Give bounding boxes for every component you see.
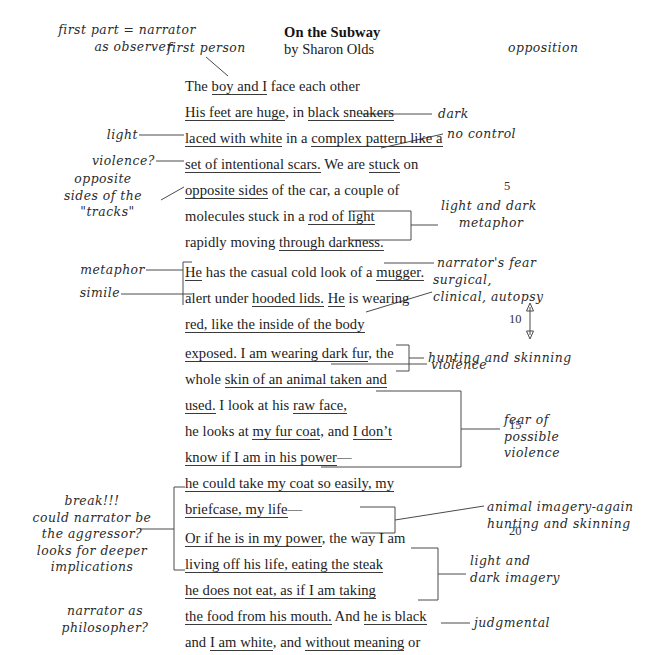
poem-underlined-phrase: black sneakers <box>308 104 394 121</box>
poem-plain-text: — <box>288 501 303 517</box>
annotation-first-person: first person <box>167 40 246 57</box>
poem-plain-text: , and <box>320 423 352 439</box>
poem-underlined-phrase: the food from his mouth. <box>185 608 332 625</box>
poem-line: know if I am in his power— <box>185 449 352 466</box>
poem-line: opposite sides of the car, a couple of <box>185 182 400 199</box>
poem-underlined-phrase: He <box>328 290 345 307</box>
poem-plain-text: — <box>337 449 352 465</box>
poem-underlined-phrase: through darkness. <box>279 234 384 251</box>
annotation-narrator-as-philosopher: narrator as philosopher? <box>40 603 170 636</box>
poem-line: set of intentional scars. We are stuck o… <box>185 156 418 173</box>
poem-line: he does not eat, as if I am taking <box>185 582 376 599</box>
poem-header: On the Subway by Sharon Olds <box>284 24 484 58</box>
poem-underlined-phrase: he does not eat, as if I am taking <box>185 582 376 599</box>
poem-underlined-phrase: I am white <box>210 634 273 651</box>
poem-underlined-phrase: complex pattern like a <box>311 130 442 147</box>
poem-underlined-phrase: briefcase, my life <box>185 501 288 518</box>
connector-animal-imagery <box>395 506 484 520</box>
line-number: 10 <box>509 312 522 327</box>
line-number: 5 <box>504 179 510 194</box>
poem-underlined-phrase: living off his life, eating the steak <box>185 556 383 573</box>
poem-underlined-phrase: His feet are huge <box>185 104 285 121</box>
poem-plain-text: or <box>404 634 420 650</box>
annotation-surgical-clinical-autopsy: surgical, clinical, autopsy <box>433 272 544 305</box>
poem-plain-text: in a <box>282 130 311 146</box>
poem-plain-text: face each other <box>267 78 360 94</box>
bracket-hunting-skinning <box>396 345 409 371</box>
connector-first-person <box>206 57 228 76</box>
poem-plain-text: , the <box>368 345 393 361</box>
poem-line: He has the casual cold look of a mugger. <box>185 264 424 281</box>
annotation-metaphor: metaphor <box>40 262 145 279</box>
annotation-violence-question: violence? <box>60 153 155 170</box>
poem-underlined-phrase: boy and I <box>212 78 268 95</box>
annotation-break-aggressor: break!!! could narrator be the aggressor… <box>22 493 162 576</box>
poem-plain-text: , and <box>273 634 305 650</box>
poem-line: laced with white in a complex pattern li… <box>185 130 443 147</box>
poem-underlined-phrase: rod of light <box>308 208 374 225</box>
poem-line: His feet are huge, in black sneakers <box>185 104 394 121</box>
poem-line: molecules stuck in a rod of light <box>185 208 375 225</box>
annotation-simile: simile <box>40 285 120 302</box>
poem-plain-text: The <box>185 78 212 94</box>
poem-plain-text: whole <box>185 371 225 387</box>
poem-line: whole skin of an animal taken and <box>185 371 387 388</box>
bracket-break-aggressor <box>174 487 185 570</box>
poem-underlined-phrase: hooded lids. <box>252 290 324 307</box>
poem-plain-text: of the car, a couple of <box>268 182 400 198</box>
connector-simile <box>121 294 183 305</box>
poem-plain-text: is wearing <box>345 290 410 306</box>
poem-underlined-phrase: laced with white <box>185 130 282 147</box>
poem-line: exposed. I am wearing dark fur, the <box>185 345 394 362</box>
annotation-no-control: no control <box>447 126 516 143</box>
poem-line: and I am white, and without meaning or <box>185 634 420 651</box>
poem-underlined-phrase: Or if he is in my power <box>185 530 322 547</box>
annotation-judgmental: judgmental <box>474 615 550 632</box>
line-number: 15 <box>509 418 522 433</box>
poem-line: rapidly moving through darkness. <box>185 234 384 251</box>
annotation-light: light <box>60 127 138 144</box>
worksheet-page: On the Subway by Sharon Olds first part … <box>0 0 657 655</box>
annotation-opposite-sides-tracks: opposite sides of the "tracks" <box>38 171 168 221</box>
page-title: On the Subway <box>284 24 484 41</box>
poem-plain-text: he looks at <box>185 423 252 439</box>
poem-line: used. I look at his raw face, <box>185 397 347 414</box>
poem-plain-text: has the casual cold look of a <box>202 264 376 280</box>
poem-underlined-phrase: I don’t <box>353 423 392 440</box>
annotation-opposition: opposition <box>508 40 579 57</box>
poem-underlined-phrase: skin of an animal taken and <box>225 371 387 388</box>
poem-plain-text: , the way I am <box>322 530 406 546</box>
poem-plain-text: , in <box>285 104 308 120</box>
annotation-narrators-fear: narrator's fear <box>437 255 536 272</box>
poem-plain-text: I look at his <box>216 397 293 413</box>
poem-underlined-phrase: red, like the inside of the body <box>185 316 365 333</box>
poem-underlined-phrase: set of intentional scars. <box>185 156 321 173</box>
poem-plain-text: We are <box>321 156 369 172</box>
poem-underlined-phrase: raw face, <box>293 397 347 414</box>
annotation-dark: dark <box>438 106 469 123</box>
poem-underlined-phrase: opposite sides <box>185 182 268 199</box>
annotation-light-and-dark-imagery: light and dark imagery <box>470 553 560 586</box>
poem-underlined-phrase: mugger. <box>376 264 424 281</box>
poem-underlined-phrase: he is black <box>364 608 427 625</box>
poem-plain-text: alert under <box>185 290 252 306</box>
poem-underlined-phrase: my fur coat <box>252 423 320 440</box>
line-number: 20 <box>509 524 522 539</box>
poem-line: Or if he is in my power, the way I am <box>185 530 406 547</box>
poem-underlined-phrase: He <box>185 264 202 281</box>
poem-plain-text: and <box>185 634 210 650</box>
poem-line: he looks at my fur coat, and I don’t <box>185 423 392 440</box>
poem-line: alert under hooded lids. He is wearing <box>185 290 409 307</box>
poem-author: by Sharon Olds <box>284 41 484 58</box>
poem-underlined-phrase: exposed. I am wearing dark fur <box>185 345 368 362</box>
poem-underlined-phrase: without meaning <box>305 634 404 651</box>
poem-underlined-phrase: used. <box>185 397 216 414</box>
poem-line: briefcase, my life— <box>185 501 302 518</box>
annotation-violence: violence <box>431 357 487 374</box>
poem-underlined-phrase: know if I am in his power <box>185 449 337 466</box>
poem-underlined-phrase: stuck <box>369 156 400 173</box>
poem-plain-text: on <box>400 156 418 172</box>
poem-line: red, like the inside of the body <box>185 316 365 333</box>
annotation-light-and-dark-metaphor: light and dark metaphor <box>441 198 537 231</box>
poem-line: he could take my coat so easily, my <box>185 475 394 492</box>
